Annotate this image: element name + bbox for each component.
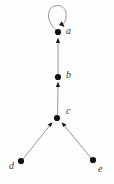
node-label-b: b xyxy=(66,70,71,80)
edge-c-to-b xyxy=(56,82,60,116)
edge-e-to-c xyxy=(62,122,91,158)
node-b[interactable] xyxy=(55,74,61,80)
node-c[interactable] xyxy=(54,115,60,121)
node-d[interactable] xyxy=(18,158,24,164)
edge-b-to-a xyxy=(56,38,60,75)
node-label-c: c xyxy=(66,106,70,116)
arrowhead-e-c xyxy=(62,122,67,127)
graph-diagram: a b c d e xyxy=(0,0,114,184)
arrowhead-c-b xyxy=(56,82,60,88)
edge-line-e-c xyxy=(63,124,91,158)
arrowhead-b-a xyxy=(56,38,60,44)
edge-d-to-c xyxy=(23,122,53,159)
edge-a-self-loop xyxy=(49,5,67,29)
graph-canvas xyxy=(0,0,114,184)
node-label-e: e xyxy=(98,164,102,174)
node-label-d: d xyxy=(9,161,14,171)
node-e[interactable] xyxy=(90,157,96,163)
node-a[interactable] xyxy=(55,29,61,35)
edge-line-d-c xyxy=(23,124,51,159)
arrowhead-d-c xyxy=(48,122,53,127)
node-label-a: a xyxy=(66,26,71,36)
